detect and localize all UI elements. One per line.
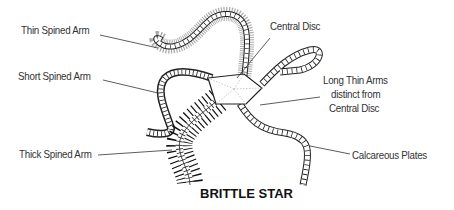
label-thin-spined-arm: Thin Spined Arm — [21, 24, 89, 36]
thin-spined-arm — [156, 14, 247, 80]
leader-thick-spined — [98, 150, 172, 155]
label-long-thin-arms-line2: distinct from — [331, 88, 380, 100]
leader-long-thin — [260, 97, 320, 105]
diagram-title: BRITTLE STAR — [200, 186, 293, 201]
label-central-disc: Central Disc — [270, 20, 320, 32]
label-long-thin-arms-line1: Long Thin Arms — [323, 74, 388, 86]
label-calcareous-plates: Calcareous Plates — [352, 149, 427, 161]
label-long-thin-arms-line3: Central Disc — [329, 102, 379, 114]
leader-calcareous — [310, 146, 350, 154]
leader-short-spined — [103, 80, 158, 93]
central-disc — [208, 74, 262, 104]
thick-spined-arm — [179, 100, 218, 185]
leader-thin-spined — [100, 35, 158, 48]
label-short-spined-arm: Short Spined Arm — [18, 70, 91, 82]
right-curl-arm — [262, 49, 319, 84]
label-thick-spined-arm: Thick Spined Arm — [19, 148, 92, 160]
long-thin-arm — [240, 104, 308, 185]
